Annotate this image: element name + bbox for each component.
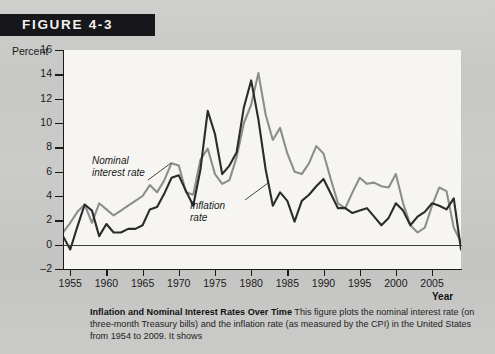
nominal-leader-line (148, 163, 171, 180)
y-tick-mark (55, 50, 63, 51)
x-tick-label: 2000 (376, 277, 416, 289)
x-tick-label: 1975 (195, 277, 235, 289)
x-tick-mark (106, 269, 107, 276)
y-tick-mark (55, 196, 63, 197)
x-tick-label: 2005 (412, 277, 452, 289)
x-tick-label: 1990 (304, 277, 344, 289)
y-tick-mark (55, 220, 63, 221)
y-tick-mark (55, 123, 63, 124)
y-tick-mark (55, 172, 63, 173)
y-tick-label: 0 (26, 238, 52, 250)
y-tick-label: –2 (26, 262, 52, 274)
x-tick-mark (251, 269, 252, 276)
y-tick-mark (55, 74, 63, 75)
x-axis-title: Year (432, 291, 453, 302)
y-tick-mark (55, 99, 63, 100)
y-tick-label: 6 (26, 165, 52, 177)
x-tick-mark (143, 269, 144, 276)
x-tick-mark (70, 269, 71, 276)
x-tick-mark (324, 269, 325, 276)
figure-caption: Inflation and Nominal Interest Rates Ove… (90, 306, 490, 343)
x-tick-label: 1985 (267, 277, 307, 289)
y-tick-label: 4 (26, 189, 52, 201)
x-tick-mark (215, 269, 216, 276)
x-tick-label: 1960 (86, 277, 126, 289)
x-tick-label: 1970 (159, 277, 199, 289)
x-tick-label: 1965 (123, 277, 163, 289)
inflation-annotation-line1: Inflation (190, 200, 225, 211)
x-tick-label: 1955 (50, 277, 90, 289)
y-tick-label: 14 (26, 67, 52, 79)
figure-number-label: FIGURE 4-3 (22, 17, 113, 32)
y-tick-mark (55, 269, 63, 270)
x-axis-line (63, 269, 462, 270)
x-tick-mark (432, 269, 433, 276)
x-tick-mark (287, 269, 288, 276)
y-tick-label: 12 (26, 92, 52, 104)
caption-title: Inflation and Nominal Interest Rates Ove… (90, 307, 292, 317)
x-tick-label: 1980 (231, 277, 271, 289)
inflation-series-annotation: Inflation rate (190, 200, 225, 223)
x-tick-label: 1995 (340, 277, 380, 289)
y-tick-label: 2 (26, 213, 52, 225)
y-tick-mark (55, 147, 63, 148)
y-tick-mark (55, 245, 63, 246)
y-tick-label: 16 (26, 43, 52, 55)
y-tick-label: 10 (26, 116, 52, 128)
inflation-annotation-line2: rate (190, 212, 207, 223)
inflation-leader-line (245, 183, 268, 200)
x-tick-mark (396, 269, 397, 276)
annotation-leader-lines (63, 50, 461, 269)
y-tick-label: 8 (26, 140, 52, 152)
x-tick-mark (179, 269, 180, 276)
x-tick-mark (360, 269, 361, 276)
